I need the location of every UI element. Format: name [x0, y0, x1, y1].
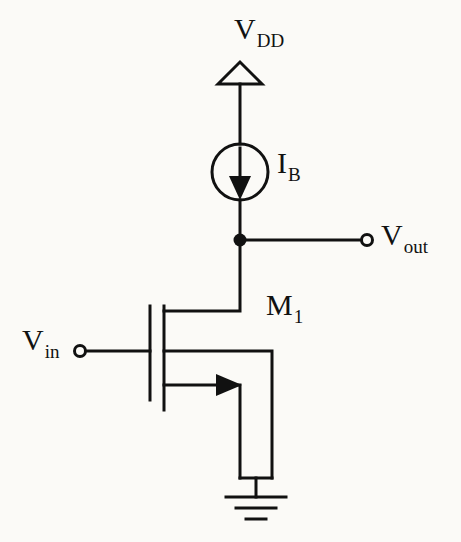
wire-output-to-drain: [164, 240, 240, 311]
output-junction-dot: [234, 234, 247, 247]
circuit-schematic: [0, 0, 461, 542]
label-m1-main: M: [266, 288, 293, 321]
label-vin-main: V: [22, 323, 44, 356]
label-ib: IB: [277, 148, 300, 180]
mosfet-bulk-arrowhead-icon: [216, 374, 242, 396]
label-vdd: VDD: [234, 14, 283, 46]
label-ib-sub: B: [288, 164, 301, 185]
label-m1: M1: [266, 290, 302, 322]
label-vout: Vout: [381, 220, 427, 252]
current-source-arrowhead-icon: [229, 176, 251, 200]
label-vdd-main: V: [234, 12, 256, 45]
label-ib-main: I: [277, 146, 287, 179]
vout-open-terminal[interactable]: [362, 235, 373, 246]
vdd-supply-arrow-icon: [218, 62, 262, 84]
label-vdd-sub: DD: [257, 30, 284, 51]
wire-source-down: [164, 385, 240, 478]
label-m1-sub: 1: [294, 306, 304, 327]
circuit-diagram-canvas: VDD IB Vout M1 Vin: [0, 0, 461, 542]
label-vout-main: V: [381, 218, 403, 251]
vin-open-terminal[interactable]: [75, 346, 86, 357]
label-vin-sub: in: [45, 341, 60, 362]
wire-bulk-right-down: [164, 351, 272, 478]
label-vout-sub: out: [404, 236, 428, 257]
label-vin: Vin: [22, 325, 58, 357]
